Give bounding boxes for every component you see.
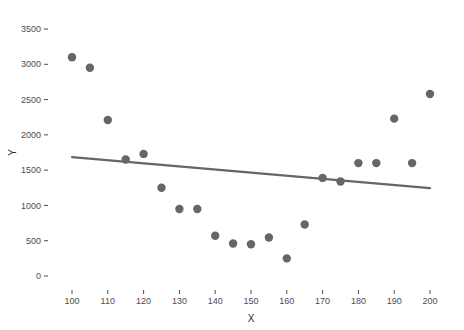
data-point — [211, 232, 219, 240]
y-tick-label: 3000 — [21, 59, 41, 69]
x-tick-label: 100 — [64, 296, 79, 306]
data-point — [229, 239, 237, 247]
x-tick-label: 170 — [315, 296, 330, 306]
data-point — [301, 220, 309, 228]
x-axis-title: X — [248, 313, 255, 324]
x-tick-label: 130 — [172, 296, 187, 306]
y-tick-label: 2500 — [21, 95, 41, 105]
y-axis: 0500100015002000250030003500 — [21, 24, 48, 281]
data-point — [354, 159, 362, 167]
data-point — [122, 155, 130, 163]
y-tick-label: 1500 — [21, 165, 41, 175]
data-point — [283, 254, 291, 262]
data-point — [426, 90, 434, 98]
y-tick-label: 2000 — [21, 130, 41, 140]
x-tick-label: 180 — [351, 296, 366, 306]
data-point — [390, 114, 398, 122]
y-tick-label: 500 — [26, 236, 41, 246]
data-point — [175, 205, 183, 213]
y-tick-label: 3500 — [21, 24, 41, 34]
data-point — [336, 177, 344, 185]
scatter-plot-figure: 0500100015002000250030003500100110120130… — [0, 0, 464, 330]
x-tick-label: 160 — [279, 296, 294, 306]
data-point — [139, 150, 147, 158]
x-tick-label: 120 — [136, 296, 151, 306]
y-axis-title: Y — [7, 149, 18, 156]
plot-canvas: 0500100015002000250030003500100110120130… — [0, 0, 464, 330]
data-point — [104, 116, 112, 124]
x-tick-label: 200 — [422, 296, 437, 306]
data-point — [372, 159, 380, 167]
data-point — [157, 184, 165, 192]
data-point — [193, 205, 201, 213]
data-point — [86, 64, 94, 72]
y-tick-label: 1000 — [21, 201, 41, 211]
x-tick-label: 110 — [101, 296, 115, 306]
data-point — [408, 159, 416, 167]
x-axis: 100110120130140150160170180190200 — [64, 290, 437, 306]
y-tick-label: 0 — [36, 271, 41, 281]
x-tick-label: 150 — [243, 296, 258, 306]
data-point — [265, 233, 273, 241]
data-point — [247, 240, 255, 248]
x-tick-label: 140 — [208, 296, 223, 306]
x-tick-label: 190 — [387, 296, 402, 306]
data-point — [318, 174, 326, 182]
data-point — [68, 53, 76, 61]
